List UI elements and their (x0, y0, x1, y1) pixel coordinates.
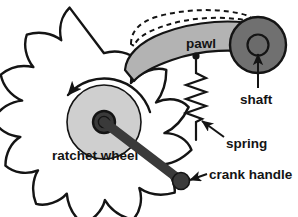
shaft-label: shaft (240, 92, 273, 107)
spring-label: spring (226, 136, 267, 151)
shaft-inner (248, 35, 269, 56)
crank-handle-knob (173, 173, 190, 190)
diagram-canvas: ratchet wheel pawl shaft spring (0, 0, 298, 217)
spring-coil (186, 56, 206, 140)
pawl-label: pawl (186, 36, 216, 51)
ratchet-mechanism-diagram: ratchet wheel pawl shaft spring (0, 0, 298, 217)
crank-handle-leader-line (190, 174, 207, 180)
crank-handle-label: crank handle (209, 167, 293, 182)
crank-handle-annotation: crank handle (190, 167, 293, 182)
shaft: shaft (230, 17, 286, 107)
ratchet-wheel-label: ratchet wheel (52, 148, 138, 163)
spring-leader-line (202, 121, 224, 137)
